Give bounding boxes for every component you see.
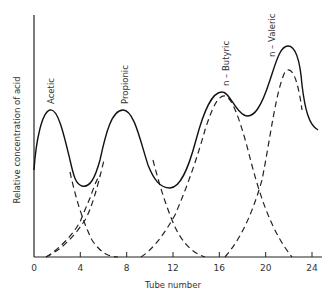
peak-label-propionic: Propionic [120, 65, 130, 104]
y-axis-label: Relative concentration of acid [12, 76, 22, 203]
total-concentration-curve [34, 46, 318, 188]
x-tick-labels: 0 4 8 12 16 20 24 [31, 263, 318, 273]
acetic-falling-curve [70, 172, 118, 257]
butyric-component-curve [141, 96, 292, 257]
x-axis-label: Tube number [144, 280, 201, 290]
chromatogram-chart: 0 4 8 12 16 20 24 Tube number Relative c… [0, 0, 334, 294]
peak-label-valeric: n – Valeric [267, 13, 277, 57]
propionic-right-curve [153, 160, 205, 257]
x-tick-label: 0 [31, 263, 37, 273]
peak-label-butyric: n – Butyric [221, 41, 231, 86]
x-tick-label: 16 [214, 263, 226, 273]
x-tick-label: 8 [124, 263, 130, 273]
x-tick-label: 12 [167, 263, 178, 273]
x-tick-label: 20 [260, 263, 272, 273]
x-tick-label: 24 [306, 263, 318, 273]
peak-label-acetic: Acetic [46, 78, 56, 104]
x-tick-label: 4 [77, 263, 83, 273]
